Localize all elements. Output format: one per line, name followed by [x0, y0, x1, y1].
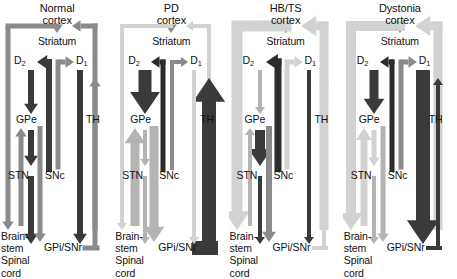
panel-title-hbts: HB/TScortex	[229, 2, 343, 26]
node-d2: D2	[243, 55, 255, 67]
pathway-snc-to-d1	[284, 56, 303, 169]
circuit-panel-hbts: HB/TScortexStriatumD2D1GPeTHSTNSNcBrain-…	[229, 0, 343, 274]
pathway-d2-to-gpe	[24, 70, 38, 114]
node-striatum: Striatum	[0, 36, 114, 48]
node-d1: D1	[76, 55, 88, 67]
node-brainstem-spinal-cord: Brain-stemSpinalcord	[230, 230, 259, 279]
node-brainstem-spinal-cord: Brain-stemSpinalcord	[115, 230, 144, 279]
node-brainstem-spinal-cord: Brain-stemSpinalcord	[1, 230, 30, 279]
node-gpe: GPe	[359, 114, 380, 126]
node-striatum: Striatum	[114, 36, 228, 48]
pathway-d1-to-gpi	[304, 70, 314, 244]
node-th: TH	[200, 114, 214, 126]
node-snc: SNc	[274, 170, 294, 182]
node-th: TH	[86, 114, 100, 126]
node-striatum: Striatum	[229, 36, 343, 48]
node-d2: D2	[128, 55, 140, 67]
node-th: TH	[429, 114, 443, 126]
node-d1: D1	[305, 55, 317, 67]
pathway-gpe-to-stn	[24, 130, 38, 166]
panel-title-normal: Normalcortex	[0, 2, 114, 26]
pathway-d2-to-gpe	[363, 70, 384, 114]
pathway-gpe-descending	[34, 126, 46, 242]
node-gpi-snr: GPi/SNr	[44, 242, 82, 254]
node-striatum: Striatum	[343, 36, 457, 48]
pathway-gpe-to-stn	[140, 130, 150, 166]
node-snc: SNc	[159, 170, 179, 182]
pathway-gpi-to-th-shaft	[89, 78, 101, 248]
node-gpi-snr: GPi/SNr	[158, 242, 196, 254]
pathway-snc-to-d1	[398, 56, 417, 169]
pathway-d2-to-gpe	[255, 70, 265, 114]
node-d1: D1	[419, 55, 431, 67]
circuit-panel-normal: NormalcortexStriatumD2D1GPeTHSTNSNcBrain…	[0, 0, 114, 274]
node-gpi-snr: GPi/SNr	[387, 242, 425, 254]
node-d1: D1	[190, 55, 202, 67]
node-gpe: GPe	[245, 114, 266, 126]
circuit-panel-pd: PDcortexStriatumD2D1GPeTHSTNSNcBrain-ste…	[114, 0, 228, 274]
pathway-snc-to-d1	[170, 57, 188, 170]
node-d2: D2	[357, 55, 369, 67]
pathway-gpe-descending	[377, 126, 389, 242]
node-stn: STN	[122, 170, 143, 182]
circuit-panel-dystonia: DystoniacortexStriatumD2D1GPeTHSTNSNcBra…	[343, 0, 457, 274]
pathway-d1-to-gpi	[73, 70, 87, 244]
pathway-gpe-to-stn	[368, 130, 380, 166]
node-gpe: GPe	[16, 114, 37, 126]
node-th: TH	[315, 114, 329, 126]
panel-title-dystonia: Dystoniacortex	[343, 2, 457, 26]
node-d2: D2	[14, 55, 26, 67]
node-snc: SNc	[45, 170, 65, 182]
node-stn: STN	[351, 170, 372, 182]
node-snc: SNc	[388, 170, 408, 182]
pathway-snc-to-d1	[56, 56, 75, 169]
node-stn: STN	[237, 170, 258, 182]
panel-title-pd: PDcortex	[114, 2, 228, 26]
pathway-d2-to-gpe	[130, 70, 160, 114]
pathway-gpi-to-th-shaft	[193, 78, 225, 248]
node-brainstem-spinal-cord: Brain-stemSpinalcord	[344, 230, 373, 279]
node-stn: STN	[8, 170, 29, 182]
node-gpe: GPe	[130, 114, 151, 126]
node-gpi-snr: GPi/SNr	[273, 242, 311, 254]
